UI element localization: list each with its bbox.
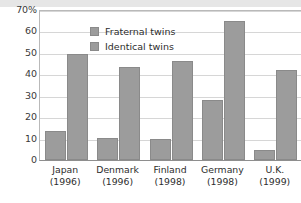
legend-label-fraternal: Fraternal twins: [105, 27, 175, 37]
x-axis-tick-label: Denmark(1996): [91, 164, 143, 188]
x-axis-tick-label: U.K.(1999): [249, 164, 301, 188]
y-axis-tick-label: 20: [1, 112, 37, 122]
y-axis-tick-label: 30: [1, 91, 37, 101]
bar-identical: [172, 61, 193, 160]
legend-swatch-identical: [90, 42, 99, 51]
plot-area: Fraternal twins Identical twins: [39, 10, 301, 161]
x-label-year: (1996): [39, 176, 91, 188]
legend-item-identical: Identical twins: [90, 40, 175, 53]
x-label-year: (1999): [249, 176, 301, 188]
x-label-country: Japan: [39, 164, 91, 176]
x-axis: Japan(1996)Denmark(1996)Finland(1998)Ger…: [39, 164, 301, 200]
y-axis: 70%6050403020100: [0, 0, 37, 203]
bar-fraternal: [45, 131, 66, 160]
x-label-country: Germany: [196, 164, 248, 176]
twin-birth-rate-bar-chart: 70%6050403020100 Fraternal twins Identic…: [0, 0, 301, 203]
x-axis-tick-label: Japan(1996): [39, 164, 91, 188]
bar-group: [45, 11, 88, 160]
x-label-year: (1998): [144, 176, 196, 188]
bar-identical: [119, 67, 140, 160]
x-label-country: Finland: [144, 164, 196, 176]
bar-fraternal: [150, 139, 171, 160]
bar-fraternal: [202, 100, 223, 160]
y-axis-tick-label: 10: [1, 134, 37, 144]
y-axis-tick-label: 60: [1, 26, 37, 36]
y-axis-tick-label: 70%: [1, 5, 37, 15]
legend-label-identical: Identical twins: [105, 42, 174, 52]
bar-fraternal: [254, 150, 275, 160]
bar-group: [202, 11, 245, 160]
legend-item-fraternal: Fraternal twins: [90, 25, 175, 38]
bar-group: [254, 11, 297, 160]
x-label-year: (1996): [91, 176, 143, 188]
x-axis-tick-label: Germany(1998): [196, 164, 248, 188]
bar-identical: [276, 70, 297, 160]
bar-identical: [224, 21, 245, 160]
x-label-country: U.K.: [249, 164, 301, 176]
x-label-year: (1998): [196, 176, 248, 188]
y-axis-tick-label: 0: [1, 155, 37, 165]
bar-fraternal: [97, 138, 118, 161]
legend-swatch-fraternal: [90, 27, 99, 36]
bar-identical: [67, 54, 88, 160]
top-band-decoration: [0, 0, 301, 7]
y-axis-tick-label: 50: [1, 48, 37, 58]
y-axis-tick-label: 40: [1, 69, 37, 79]
x-label-country: Denmark: [91, 164, 143, 176]
legend: Fraternal twins Identical twins: [90, 25, 175, 55]
x-axis-tick-label: Finland(1998): [144, 164, 196, 188]
